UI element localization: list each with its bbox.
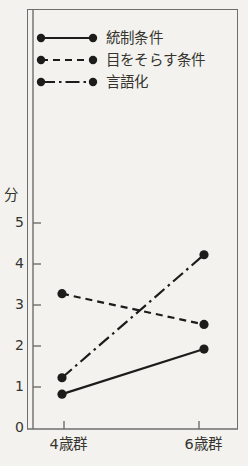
series-1 bbox=[57, 289, 208, 329]
series-line bbox=[62, 349, 204, 394]
data-series-layer bbox=[57, 250, 208, 399]
data-point bbox=[199, 250, 208, 259]
data-point bbox=[199, 320, 208, 329]
series-0 bbox=[57, 344, 208, 398]
axis-lines bbox=[27, 9, 238, 429]
data-point bbox=[57, 289, 66, 298]
series-2 bbox=[57, 250, 208, 382]
data-point bbox=[57, 373, 66, 382]
series-line bbox=[62, 294, 204, 325]
x-axis-ticks bbox=[64, 421, 199, 429]
plot-area bbox=[0, 0, 248, 466]
chart-figure: 統制条件 目をそらす条件 言語化 分 bbox=[0, 0, 248, 466]
data-point bbox=[199, 344, 208, 353]
data-point bbox=[57, 390, 66, 399]
y-axis-ticks bbox=[33, 223, 41, 387]
series-line bbox=[62, 255, 204, 378]
